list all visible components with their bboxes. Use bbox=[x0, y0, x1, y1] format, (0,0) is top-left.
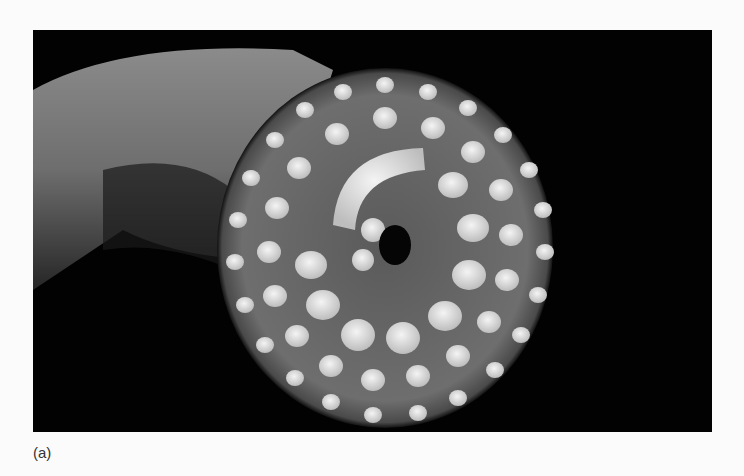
mouth-opening bbox=[379, 225, 411, 265]
lamprey-illustration bbox=[33, 30, 712, 432]
lamprey-photo bbox=[33, 30, 712, 432]
panel-label: (a) bbox=[33, 444, 51, 461]
